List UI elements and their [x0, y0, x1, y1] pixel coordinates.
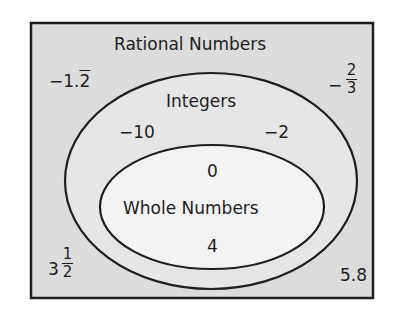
member-negative-two-thirds-sign: − [328, 77, 342, 94]
denominator: 2 [63, 265, 73, 280]
rational-numbers-label: Rational Numbers [114, 36, 266, 53]
member-three-and-a-half-fraction: 1 2 [62, 247, 73, 280]
member-negative-2: −2 [264, 124, 289, 141]
numerator: 1 [63, 247, 73, 262]
member-0: 0 [207, 163, 218, 180]
member-negative-two-thirds: 2 3 [346, 63, 357, 96]
whole-numbers-label: Whole Numbers [123, 200, 259, 217]
member-three-and-a-half-whole: 3 [48, 261, 59, 278]
member-4: 4 [207, 238, 218, 255]
member-negative-10: −10 [119, 124, 155, 141]
member-5-point-8: 5.8 [340, 267, 367, 284]
denominator: 3 [347, 81, 357, 96]
numerator: 2 [347, 63, 357, 78]
integers-label: Integers [166, 93, 236, 110]
member-prefix: −1. [49, 71, 79, 91]
repeating-digit: 2 [79, 71, 90, 91]
member-negative-1-point-2-repeating: −1.2 [49, 73, 90, 90]
